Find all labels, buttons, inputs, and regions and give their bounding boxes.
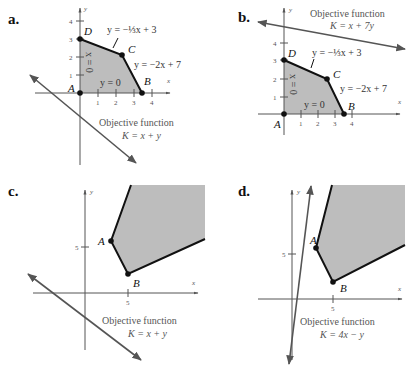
svg-text:4: 4 bbox=[69, 18, 73, 26]
equation-right-b: y = −2x + 7 bbox=[340, 83, 387, 94]
objective-title-d: Objective function bbox=[300, 316, 375, 327]
panel-b-label: b. bbox=[238, 9, 250, 25]
x-axis-label-d: x bbox=[397, 285, 402, 293]
panel-b: b. y x 1 2 3 4 1 2 3 4 A B C D bbox=[238, 6, 405, 135]
vertex-label-B-b: B bbox=[348, 100, 355, 112]
objective-equation-a: K = x + y bbox=[121, 130, 162, 141]
y-axis-label-b: y bbox=[288, 6, 293, 14]
svg-text:4: 4 bbox=[150, 99, 154, 107]
equation-bottom-b: y = 0 bbox=[304, 99, 325, 110]
y-axis-label-a: y bbox=[83, 5, 88, 13]
equation-left-a: x = 0 bbox=[84, 52, 95, 73]
vertex-label-A-a: A bbox=[67, 82, 75, 94]
svg-text:1: 1 bbox=[69, 72, 73, 80]
equation-left-b: x = 0 bbox=[288, 74, 299, 95]
vertex-C-a bbox=[119, 52, 125, 58]
x-tick-label-c: 5 bbox=[126, 299, 130, 307]
vertex-A-d bbox=[313, 245, 319, 251]
objective-equation-b: K = x + 7y bbox=[329, 20, 375, 31]
x-tick-label-d: 5 bbox=[331, 305, 335, 313]
pointer-arrow-b bbox=[311, 59, 314, 68]
svg-text:1: 1 bbox=[96, 99, 100, 107]
svg-text:1: 1 bbox=[273, 94, 277, 102]
vertex-A-a bbox=[77, 90, 83, 96]
vertex-label-A-d: A bbox=[309, 234, 317, 246]
vertex-label-C-b: C bbox=[333, 68, 341, 80]
panel-d-label: d. bbox=[238, 183, 250, 199]
panel-a-label: a. bbox=[8, 11, 20, 27]
vertex-label-B-d: B bbox=[340, 282, 347, 294]
vertex-D-a bbox=[77, 36, 83, 42]
vertex-B-a bbox=[139, 90, 145, 96]
vertex-B-b bbox=[341, 111, 347, 117]
vertex-B-c bbox=[125, 271, 131, 277]
panel-a: a. y x 1 2 3 4 1 2 3 4 A B bbox=[8, 5, 181, 165]
svg-text:3: 3 bbox=[69, 36, 73, 44]
vertex-label-B-c: B bbox=[133, 277, 140, 289]
vertex-label-D-b: D bbox=[287, 47, 296, 59]
equation-bottom-a: y = 0 bbox=[100, 77, 121, 88]
x-axis-label-a: x bbox=[166, 77, 171, 85]
objective-equation-d: K = 4x − y bbox=[319, 329, 365, 340]
vertex-A-b bbox=[281, 111, 287, 117]
x-axis-label-c: x bbox=[191, 279, 196, 287]
objective-title-a: Objective function bbox=[99, 117, 174, 128]
equation-top-b: y = −⅓x + 3 bbox=[312, 47, 361, 58]
objective-title-c: Objective function bbox=[102, 315, 177, 326]
vertex-D-b bbox=[281, 57, 287, 63]
vertex-B-d bbox=[330, 279, 336, 285]
objective-title-b: Objective function bbox=[310, 8, 385, 19]
panel-c-label: c. bbox=[8, 183, 19, 199]
figure-canvas: a. y x 1 2 3 4 1 2 3 4 A B bbox=[0, 0, 410, 370]
equation-right-a: y = −2x + 7 bbox=[134, 59, 181, 70]
vertex-label-C-a: C bbox=[128, 43, 136, 55]
svg-text:2: 2 bbox=[114, 99, 118, 107]
svg-text:2: 2 bbox=[316, 120, 320, 128]
svg-text:3: 3 bbox=[132, 99, 136, 107]
y-axis-label-c: y bbox=[89, 188, 94, 196]
vertex-A-c bbox=[108, 238, 114, 244]
y-axis-label-d: y bbox=[296, 188, 301, 196]
vertex-label-A-c: A bbox=[97, 235, 105, 247]
y-tick-label-c: 5 bbox=[75, 244, 79, 252]
vertex-C-b bbox=[324, 76, 330, 82]
panel-c: c. y x 5 5 A B Objective function K = x … bbox=[8, 183, 205, 360]
y-tick-label-d: 5 bbox=[282, 251, 286, 259]
svg-text:3: 3 bbox=[333, 120, 337, 128]
svg-text:2: 2 bbox=[273, 76, 277, 84]
objective-equation-c: K = x + y bbox=[127, 328, 168, 339]
svg-text:4: 4 bbox=[273, 40, 277, 48]
x-axis-label-b: x bbox=[397, 98, 402, 106]
svg-text:2: 2 bbox=[69, 54, 73, 62]
svg-text:4: 4 bbox=[350, 120, 354, 128]
equation-top-a: y = −⅓x + 3 bbox=[107, 24, 156, 35]
panel-d: d. y x 5 5 A B Objective function K = 4x… bbox=[238, 183, 405, 364]
vertex-label-D-a: D bbox=[83, 25, 92, 37]
svg-text:3: 3 bbox=[273, 57, 277, 65]
svg-text:1: 1 bbox=[299, 120, 303, 128]
vertex-label-A-b: A bbox=[273, 118, 281, 130]
vertex-label-B-a: B bbox=[144, 75, 151, 87]
pointer-arrow-a bbox=[113, 38, 118, 48]
